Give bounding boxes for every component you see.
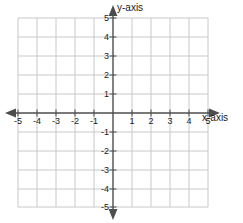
x-tick-label--3: -3 [48,116,64,126]
x-tick-label--2: -2 [67,116,83,126]
x-tick-label-4: 4 [182,116,196,126]
x-tick-label--4: -4 [29,116,45,126]
x-tick-label-2: 2 [144,116,158,126]
x-tick-label--5: -5 [10,116,26,126]
y-axis-arrow-down [109,209,118,220]
y-tick-label--5: -5 [93,202,109,212]
y-tick-label-4: 4 [97,32,109,42]
coordinate-plane-figure: -5 -4 -3 -2 -1 1 2 3 4 5 5 4 3 2 1 -1 -2… [0,0,243,223]
x-axis-label: x-axis [202,112,228,123]
y-tick-label-1: 1 [97,89,109,99]
y-tick-label-3: 3 [97,51,109,61]
y-tick-label-5: 5 [97,13,109,23]
y-tick-label--3: -3 [93,165,109,175]
y-axis-label: y-axis [117,2,143,13]
x-tick-label--1: -1 [86,116,102,126]
x-tick-label-3: 3 [163,116,177,126]
y-tick-label--1: -1 [93,127,109,137]
x-tick-label-1: 1 [125,116,139,126]
y-tick-label-2: 2 [97,70,109,80]
y-tick-label--2: -2 [93,146,109,156]
y-tick-label--4: -4 [93,184,109,194]
